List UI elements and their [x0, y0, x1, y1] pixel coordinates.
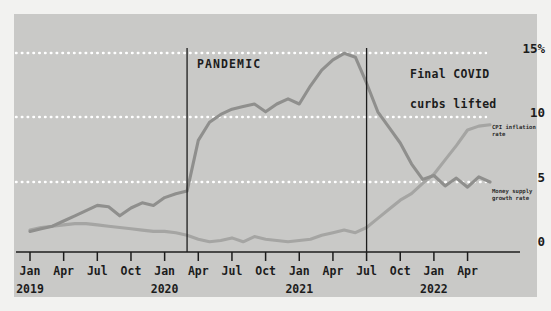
x-tick-label: Jan — [289, 264, 310, 278]
y-tick-5: 5 — [537, 170, 545, 185]
annotation-covid-line2: curbs lifted — [410, 97, 497, 111]
annotation-covid-curbs-lifted: Final COVID curbs lifted — [381, 52, 497, 127]
x-axis-year-label: 2022 — [420, 282, 448, 296]
x-axis-group — [16, 252, 520, 261]
x-tick-label: Jan — [154, 264, 175, 278]
y-tick-0: 0 — [537, 234, 545, 249]
x-tick-label: Jan — [424, 264, 445, 278]
x-tick-label: Jul — [356, 264, 377, 278]
series-label-money-supply: Money supply growth rate — [492, 188, 532, 202]
x-axis-year-label: 2019 — [16, 282, 44, 296]
series-label-cpi: CPI inflation rate — [492, 124, 551, 138]
x-tick-label: Oct — [255, 264, 276, 278]
x-axis-year-label: 2020 — [151, 282, 179, 296]
annotation-pandemic: PANDEMIC — [197, 57, 261, 71]
series-label-money-supply-line1: Money supply — [492, 188, 532, 194]
series-line-cpi-inflation — [30, 125, 490, 242]
series-label-money-supply-line2: growth rate — [492, 195, 529, 201]
x-tick-label: Jul — [87, 264, 108, 278]
x-tick-label: Jul — [222, 264, 243, 278]
x-tick-label: Oct — [390, 264, 411, 278]
x-tick-label: Apr — [53, 264, 74, 278]
y-tick-10: 10 — [530, 105, 545, 120]
x-tick-label: Apr — [188, 264, 209, 278]
y-tick-15: 15% — [522, 41, 545, 56]
x-tick-label: Jan — [20, 264, 41, 278]
x-axis-year-label: 2021 — [285, 282, 313, 296]
annotation-covid-line1: Final COVID — [410, 67, 489, 81]
x-tick-label: Oct — [121, 264, 142, 278]
chart-figure: 15% 10 5 0 CPI inflation rate Money supp… — [0, 0, 551, 311]
x-tick-label: Apr — [323, 264, 344, 278]
x-tick-label: Apr — [457, 264, 478, 278]
event-vertical-lines-group — [187, 48, 367, 252]
